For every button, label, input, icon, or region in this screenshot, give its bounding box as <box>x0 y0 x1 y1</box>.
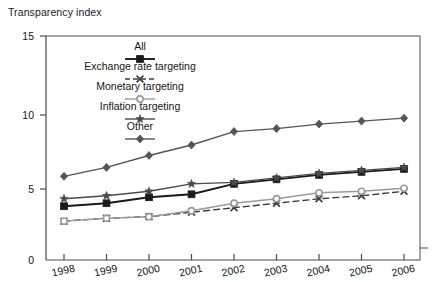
x-tick-label: 2001 <box>178 262 203 279</box>
data-point-marker-open-circle <box>103 215 109 221</box>
series-line <box>64 118 404 176</box>
data-point-marker-filled-diamond <box>145 151 152 159</box>
data-point-marker-filled-diamond <box>60 172 67 180</box>
x-tick-label: 1999 <box>93 262 118 279</box>
data-point-marker-filled-diamond <box>400 114 407 122</box>
data-point-marker-filled-square <box>103 200 110 207</box>
data-point-marker-filled-diamond <box>136 135 143 143</box>
x-axis-ticks: 199819992000200120022003200420052006 <box>50 254 415 278</box>
data-point-marker-filled-diamond <box>358 117 365 125</box>
data-point-marker-open-circle <box>188 208 194 214</box>
data-point-marker-filled-star <box>102 191 110 199</box>
x-tick-label: 2005 <box>348 262 373 279</box>
x-tick-label: 2004 <box>305 262 330 279</box>
legend-item-monetary-targeting[interactable]: Monetary targeting <box>96 80 184 102</box>
data-point-marker-open-circle <box>273 196 279 202</box>
legend-label: Exchange rate targeting <box>84 60 196 72</box>
x-tick-label: 2003 <box>263 262 288 279</box>
data-point-marker-open-circle <box>401 185 407 191</box>
y-tick-label-5: 5 <box>28 183 34 195</box>
legend-label: Monetary targeting <box>96 80 184 92</box>
x-tick-label: 1998 <box>50 262 75 279</box>
y-axis-ticks: 15 10 5 0 <box>22 30 46 266</box>
legend-item-other[interactable]: Other <box>125 120 155 143</box>
series-monetary-targeting <box>61 185 407 224</box>
x-tick-label: 2006 <box>390 262 415 279</box>
y-tick-label-15: 15 <box>22 30 34 42</box>
data-point-marker-filled-star <box>60 194 68 202</box>
transparency-index-line-chart: 15 10 5 0 199819992000200120022003200420… <box>0 0 444 282</box>
data-point-marker-filled-diamond <box>230 128 237 136</box>
data-point-marker-open-circle <box>358 188 364 194</box>
data-point-marker-filled-square <box>188 191 195 198</box>
y-tick-label-10: 10 <box>22 109 34 121</box>
data-point-marker-open-circle <box>61 218 67 224</box>
data-point-marker-filled-diamond <box>103 163 110 171</box>
chart-screenshot: Transparency index 15 10 5 0 19981999200… <box>0 0 444 282</box>
data-point-marker-filled-square <box>61 203 68 210</box>
chart-legend: AllExchange rate targetingMonetary targe… <box>84 40 196 143</box>
data-point-marker-open-circle <box>316 190 322 196</box>
x-tick-label: 2000 <box>135 262 160 279</box>
data-series-group <box>60 114 408 224</box>
x-tick-label: 2002 <box>220 262 245 279</box>
data-point-marker-filled-diamond <box>315 120 322 128</box>
data-point-marker-open-circle <box>231 200 237 206</box>
data-point-marker-filled-diamond <box>188 141 195 149</box>
legend-label: Inflation targeting <box>100 100 181 112</box>
y-tick-label-0: 0 <box>28 254 34 266</box>
data-point-marker-filled-diamond <box>273 125 280 133</box>
legend-label: All <box>134 40 146 52</box>
legend-label: Other <box>127 120 154 132</box>
data-point-marker-filled-star <box>187 179 195 187</box>
data-point-marker-open-circle <box>146 214 152 220</box>
